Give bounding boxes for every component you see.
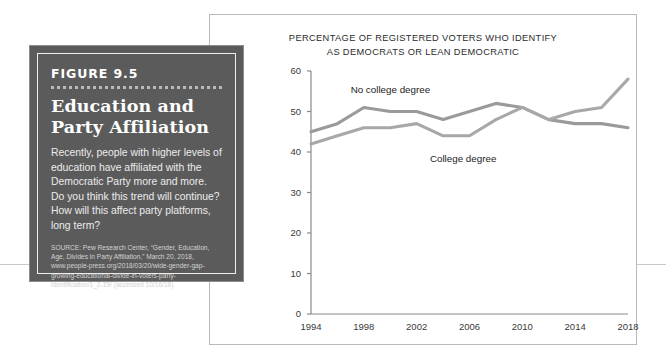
series-annotation-2: College degree bbox=[430, 153, 496, 164]
figure-page: PERCENTAGE OF REGISTERED VOTERS WHO IDEN… bbox=[0, 0, 666, 358]
series-annotation-1: No college degree bbox=[351, 84, 431, 95]
figure-number-label: FIGURE 9.5 bbox=[51, 66, 222, 81]
figure-title-line-2: Party Affiliation bbox=[51, 117, 222, 138]
chart-panel: PERCENTAGE OF REGISTERED VOTERS WHO IDEN… bbox=[209, 14, 637, 345]
figure-body-text: Recently, people with higher levels of e… bbox=[51, 146, 222, 234]
figure-title: Education and Party Affiliation bbox=[51, 96, 222, 138]
figure-callout-box: FIGURE 9.5 Education and Party Affiliati… bbox=[29, 45, 244, 282]
figure-source-citation: SOURCE: Pew Research Center, “Gender, Ed… bbox=[51, 243, 222, 290]
figure-callout-inner: FIGURE 9.5 Education and Party Affiliati… bbox=[37, 53, 236, 274]
figure-title-line-1: Education and bbox=[51, 96, 222, 117]
plot-area: 0102030405060 19941998200220062010201420… bbox=[210, 15, 638, 346]
figure-dotted-rule bbox=[51, 86, 222, 89]
series-annotations: No college degreeCollege degree bbox=[210, 15, 638, 346]
